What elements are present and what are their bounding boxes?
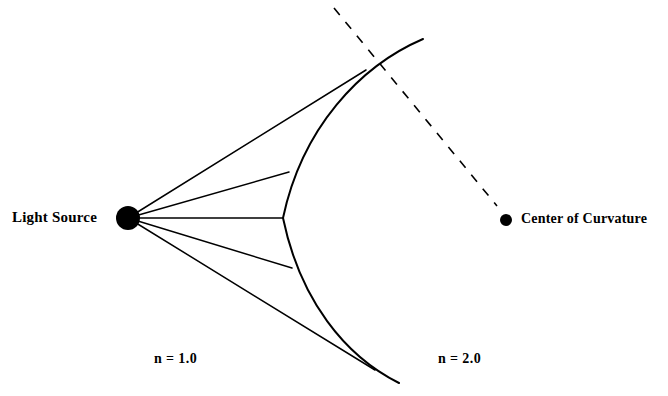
spherical-refracting-surface [283,39,423,383]
center-of-curvature-point [500,214,512,226]
ray-group [128,70,375,370]
optical-axis-dashed [334,8,497,206]
diagram-canvas [0,0,668,396]
ray-5-lower-outer [128,218,375,370]
ray-2-upper-inner [128,172,289,218]
refraction-diagram: Light Source Center of Curvature n = 1.0… [0,0,668,396]
ray-1-upper-outer [128,70,366,218]
ray-4-lower-inner [128,218,292,268]
light-source-point [116,206,140,230]
refractive-index-right-label: n = 2.0 [438,352,481,366]
refractive-index-left-label: n = 1.0 [154,352,197,366]
center-of-curvature-label: Center of Curvature [521,212,647,226]
light-source-label: Light Source [12,210,97,225]
